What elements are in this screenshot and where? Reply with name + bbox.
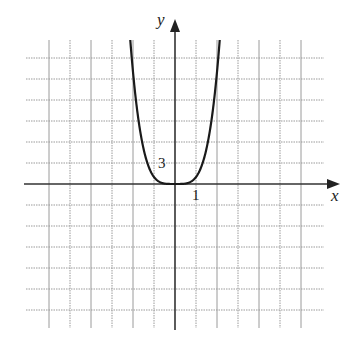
y-axis-label: y: [157, 10, 165, 30]
x-axis-label: x: [331, 186, 339, 206]
y-axis-arrow-icon: [170, 19, 180, 32]
y-tick-label: 3: [158, 155, 166, 172]
graph: [0, 0, 364, 344]
x-tick-label: 1: [192, 187, 200, 204]
axes: [24, 19, 340, 330]
